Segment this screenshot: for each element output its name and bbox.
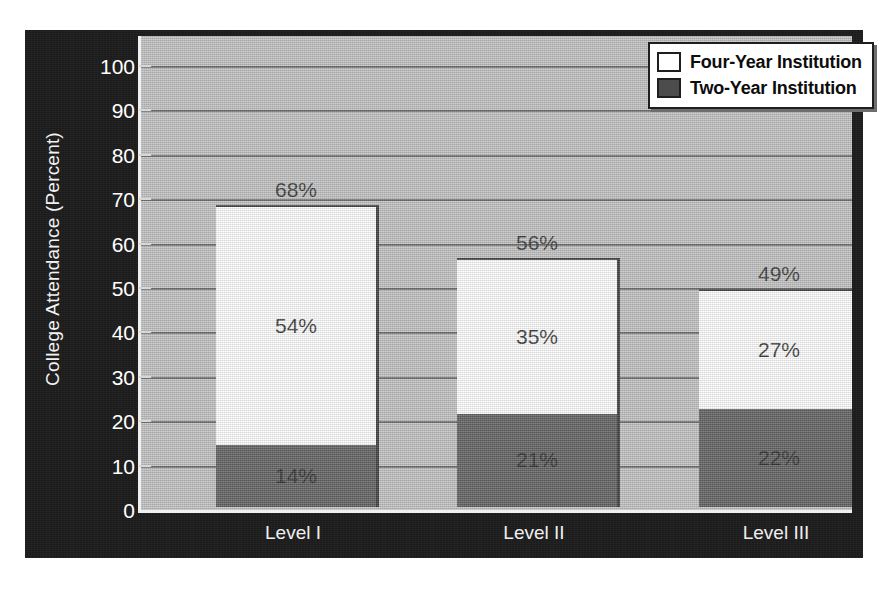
bar-total-label: 68% [216, 178, 376, 202]
y-tick-mark [139, 65, 151, 67]
bar-value-label-four-year: 35% [457, 325, 617, 349]
bar-segment-two-year[interactable]: 22% [699, 409, 852, 507]
legend-label: Two-Year Institution [690, 78, 857, 99]
bar-value-label-four-year: 54% [216, 314, 376, 338]
y-tick-label: 60 [67, 233, 135, 254]
y-axis-tick-labels: 1009080706050403020100 [67, 30, 135, 558]
y-tick-mark [139, 109, 151, 111]
bar-stack[interactable]: 22%27% [699, 289, 852, 507]
bar-total-label: 49% [699, 262, 852, 286]
chart-figure: College Attendance (Percent) 10090807060… [25, 30, 863, 558]
y-tick-mark [139, 331, 151, 333]
bar-stack[interactable]: 14%54% [216, 205, 376, 507]
y-tick-mark [139, 287, 151, 289]
y-tick-mark [139, 198, 151, 200]
y-tick-mark [139, 420, 151, 422]
y-tick-label: 40 [67, 322, 135, 343]
y-tick-label: 100 [67, 56, 135, 77]
bar-value-label-four-year: 27% [699, 338, 852, 362]
y-tick-label: 0 [67, 500, 135, 521]
y-tick-mark [139, 243, 151, 245]
gridline [141, 155, 852, 157]
legend-item[interactable]: Two-Year Institution [657, 75, 862, 101]
y-tick-mark [139, 465, 151, 467]
bar-value-label-two-year: 21% [457, 448, 617, 472]
legend-item[interactable]: Four-Year Institution [657, 49, 862, 75]
legend-swatch-icon [657, 52, 681, 72]
x-tick-label: Level I [265, 522, 321, 544]
y-tick-label: 80 [67, 144, 135, 165]
bar-segment-four-year[interactable]: 35% [457, 258, 617, 413]
bar-segment-two-year[interactable]: 14% [216, 445, 376, 507]
bar-segment-four-year[interactable]: 54% [216, 205, 376, 445]
y-axis-title: College Attendance (Percent) [42, 79, 64, 439]
bar-value-label-two-year: 14% [216, 464, 376, 488]
y-tick-label: 30 [67, 366, 135, 387]
y-tick-label: 10 [67, 455, 135, 476]
bar-stack[interactable]: 21%35% [457, 258, 617, 507]
y-tick-mark [139, 376, 151, 378]
y-tick-label: 70 [67, 189, 135, 210]
y-tick-label: 20 [67, 411, 135, 432]
x-axis-tick-labels: Level ILevel IILevel III [138, 522, 852, 556]
x-tick-label: Level II [503, 522, 564, 544]
legend-label: Four-Year Institution [690, 52, 862, 73]
y-tick-label: 50 [67, 278, 135, 299]
bar-segment-four-year[interactable]: 27% [699, 289, 852, 409]
gridline [141, 110, 852, 112]
x-tick-label: Level III [743, 522, 810, 544]
y-tick-mark [139, 154, 151, 156]
chart-legend: Four-Year InstitutionTwo-Year Institutio… [648, 42, 874, 109]
y-tick-label: 90 [67, 100, 135, 121]
bar-segment-two-year[interactable]: 21% [457, 414, 617, 507]
legend-swatch-icon [657, 78, 681, 98]
bar-value-label-two-year: 22% [699, 446, 852, 470]
bar-total-label: 56% [457, 231, 617, 255]
